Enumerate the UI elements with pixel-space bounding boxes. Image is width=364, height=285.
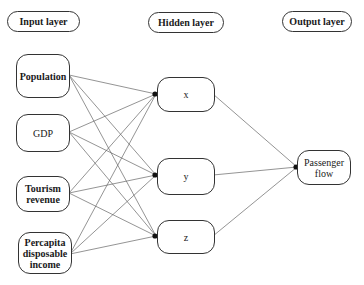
- output-layer-label: Output layer: [289, 16, 344, 27]
- output-layer-header: Output layer: [282, 11, 352, 32]
- hidden-node-x: x: [157, 77, 215, 112]
- input-layer-header: Input layer: [7, 11, 80, 32]
- hidden-layer-header: Hidden layer: [148, 12, 224, 33]
- input-layer-label: Input layer: [19, 16, 67, 27]
- input-node-population: Population: [16, 54, 70, 98]
- input-node-percapita: Percapita disposable income: [18, 232, 72, 274]
- output-node-passenger-flow: Passenger flow: [297, 150, 351, 185]
- input-node-gdp: GDP: [16, 114, 70, 152]
- hidden-node-y: y: [157, 158, 215, 195]
- input-node-tourism: Tourism revenue: [16, 176, 70, 212]
- hidden-layer-label: Hidden layer: [158, 17, 214, 28]
- hidden-node-z: z: [157, 220, 215, 254]
